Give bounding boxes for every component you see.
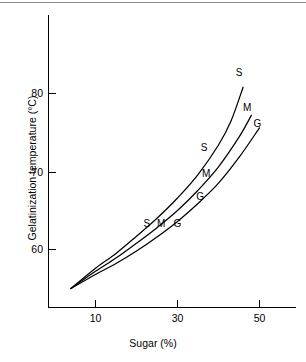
y-axis-label: Gelatinization temperature (°C) [26,68,38,268]
plot-area: 80 70 60 10 30 50 SMGSMGSMG [0,0,306,362]
curve-label-g-lower: G [174,218,182,229]
curve-labels: SMGSMGSMG [143,67,261,229]
curve-label-m-middle: M [202,168,210,179]
curve-label-s-upper: S [236,67,243,78]
x-tick-label-50: 50 [254,312,266,324]
x-tick-label-10: 10 [90,312,102,324]
series-curves [71,87,260,288]
curve-label-m-lower: M [157,218,165,229]
curve-label-m-upper: M [243,102,251,113]
curve-label-s-middle: S [201,142,208,153]
x-axis-label: Sugar (%) [0,337,306,349]
curve-label-s-lower: S [143,218,150,229]
curve-G [71,128,260,289]
chart-figure: 80 70 60 10 30 50 SMGSMGSMG Gelatinizati… [0,0,306,362]
curve-label-g-middle: G [196,191,204,202]
curve-M [71,115,251,288]
curve-label-g-upper: G [254,118,262,129]
x-tick-label-30: 30 [172,312,184,324]
curve-S [71,87,243,288]
